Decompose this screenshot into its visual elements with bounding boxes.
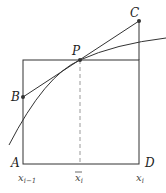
label-d: D bbox=[144, 156, 155, 170]
label-p: P bbox=[71, 44, 81, 58]
rectangle-abcd bbox=[23, 60, 139, 164]
point-p bbox=[78, 58, 82, 62]
label-c: C bbox=[130, 6, 139, 20]
diagram-canvas: P B C A D xi−1 xi xi bbox=[0, 0, 166, 193]
label-b: B bbox=[10, 90, 20, 104]
function-curve bbox=[9, 38, 166, 145]
label-x-mid: xi bbox=[75, 172, 83, 185]
point-b bbox=[21, 95, 25, 99]
label-a: A bbox=[10, 156, 20, 170]
label-x-left: xi−1 bbox=[18, 172, 36, 185]
label-x-right: xi bbox=[136, 172, 144, 185]
